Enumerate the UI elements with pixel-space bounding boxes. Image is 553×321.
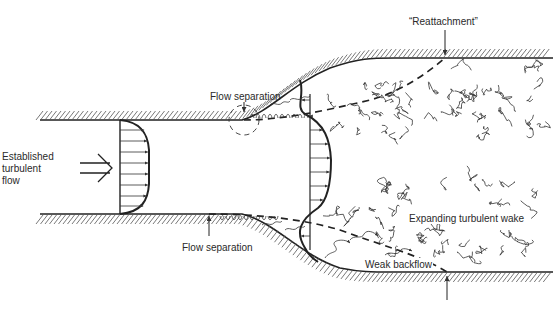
upper-shear-layer <box>244 58 445 120</box>
wake-eddy <box>434 245 445 257</box>
wake-eddy <box>512 236 526 244</box>
wake-eddy <box>371 112 383 116</box>
hatch-mark <box>282 238 289 247</box>
wake-eddy <box>525 115 533 125</box>
wake-eddy <box>482 88 492 95</box>
wake-eddy <box>389 132 398 144</box>
eddy <box>268 114 272 118</box>
wake-eddy <box>537 122 550 128</box>
backflow-eddies <box>325 231 412 258</box>
wake-eddy <box>505 97 516 112</box>
hatch-mark <box>353 51 360 60</box>
wake-eddy <box>349 206 360 217</box>
wake-eddy <box>500 246 504 256</box>
wake-eddy <box>457 252 472 258</box>
wake-eddy <box>527 124 534 137</box>
hatch-mark <box>362 50 369 59</box>
wake-eddy <box>449 105 461 117</box>
wake-eddy <box>388 205 399 216</box>
turbulent-wake <box>323 59 550 264</box>
wake-eddy <box>375 82 389 89</box>
wake-eddy <box>406 93 413 108</box>
wake-eddy <box>476 246 487 254</box>
eddy <box>262 114 266 118</box>
inlet-flow-label-1: Established <box>2 151 54 162</box>
inlet-velocity-profile <box>120 120 149 214</box>
hatch-mark <box>293 246 300 255</box>
hatch-mark <box>297 249 304 258</box>
wake-eddy <box>482 126 489 133</box>
wake-eddy <box>363 83 367 90</box>
wake-eddy <box>500 230 511 238</box>
eddy <box>298 114 302 118</box>
wake-eddy <box>401 192 411 204</box>
hatch-mark <box>349 52 356 61</box>
wake-eddy <box>393 94 400 114</box>
wake-eddy <box>389 226 395 241</box>
hatch-mark <box>324 264 331 273</box>
hatch-mark <box>345 53 352 62</box>
wake-eddy <box>499 181 515 188</box>
wake-eddy <box>451 59 471 71</box>
wake-eddy <box>525 240 533 247</box>
wake-eddy <box>441 110 455 116</box>
wake-label: Expanding turbulent wake <box>409 213 525 224</box>
wake-eddy <box>532 189 538 199</box>
double-arrow-right-icon <box>80 154 112 182</box>
hatch-mark <box>271 231 278 240</box>
separation-bottom-label: Flow separation <box>182 242 253 253</box>
wake-eddy <box>441 239 448 245</box>
hatch-mark <box>300 251 307 260</box>
hatch-mark <box>267 228 274 237</box>
hatch-mark <box>286 241 293 250</box>
wake-eddy <box>358 110 370 120</box>
downstream-velocity-profile <box>300 80 331 262</box>
hatch-mark <box>371 49 378 58</box>
reattachment-label: “Reattachment” <box>409 16 478 27</box>
upper-wall <box>36 49 553 120</box>
wake-eddy <box>498 108 512 127</box>
wake-eddy <box>441 177 447 190</box>
wake-eddy <box>375 217 383 229</box>
wake-eddy <box>400 127 409 140</box>
wake-eddy <box>323 206 340 216</box>
hatch-mark <box>274 233 281 242</box>
inlet-flow-label-2: turbulent <box>2 163 41 174</box>
wake-eddy <box>356 128 360 135</box>
hatch-mark <box>278 236 285 245</box>
separation-top-label: Flow separation <box>210 91 281 102</box>
wake-eddy <box>467 166 477 181</box>
backflow-label: Weak backflow <box>365 259 433 270</box>
wake-eddy <box>459 240 470 247</box>
wake-eddy <box>469 256 481 264</box>
wake-eddy <box>475 184 480 191</box>
wake-eddy <box>376 232 384 244</box>
hatch-mark <box>251 220 258 229</box>
hatch-mark <box>320 262 327 271</box>
wake-eddy <box>525 65 540 73</box>
wake-eddy <box>369 207 376 211</box>
hatch-mark <box>358 51 365 60</box>
wake-eddy <box>428 82 438 94</box>
wake-eddy <box>457 98 466 109</box>
wake-eddy <box>447 89 454 100</box>
wake-eddy <box>394 113 413 126</box>
wake-eddy <box>527 96 533 102</box>
hatch-mark <box>263 226 270 235</box>
wake-eddy <box>381 125 387 133</box>
wake-eddy <box>330 122 344 131</box>
hatch-mark <box>255 222 262 231</box>
hatch-mark <box>340 55 347 64</box>
hatch-mark <box>328 266 335 275</box>
wake-eddy <box>497 199 509 206</box>
wake-eddy <box>521 248 526 257</box>
wake-eddy <box>372 92 380 97</box>
hatch-mark <box>289 244 296 253</box>
lower-wall <box>36 214 553 282</box>
wake-eddy <box>469 85 477 97</box>
wake-eddy <box>336 214 351 226</box>
diffuser-diagram: Established turbulent flow Flow separati… <box>0 0 553 321</box>
inlet-flow-label-3: flow <box>2 175 21 186</box>
wake-eddy <box>482 180 492 187</box>
wake-eddy <box>424 113 437 122</box>
